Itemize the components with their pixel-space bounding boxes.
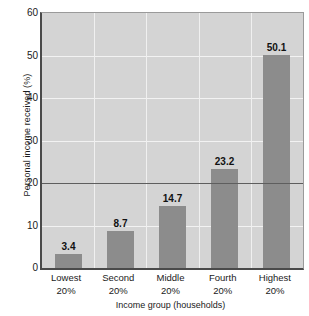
x-axis-tick-label: Highest20%	[249, 272, 301, 297]
bar	[107, 231, 134, 268]
y-axis-tick-label: 60	[8, 7, 38, 18]
vertical-gridline	[146, 13, 147, 268]
bar-value-label: 23.2	[201, 156, 248, 167]
x-axis-tick-label: Fourth20%	[197, 272, 249, 297]
vertical-gridline	[94, 13, 95, 268]
x-axis-tick-label-line: Second	[92, 272, 144, 285]
bar	[55, 254, 82, 268]
plot-inner: 3.48.714.723.250.1	[42, 13, 303, 268]
y-axis-tick-label: 10	[8, 219, 38, 230]
x-axis-tick-label: Lowest20%	[40, 272, 92, 297]
bar-value-label: 14.7	[149, 193, 196, 204]
x-axis-tick-label-line: Middle	[144, 272, 196, 285]
y-axis-tick-labels: 0102030405060	[8, 0, 38, 316]
y-axis-tick-label: 0	[8, 262, 38, 273]
bar	[263, 55, 290, 268]
x-axis-tick-label: Middle20%	[144, 272, 196, 297]
x-axis-tick-label-line: 20%	[197, 285, 249, 298]
bar	[159, 206, 186, 268]
x-axis-tick-label: Second20%	[92, 272, 144, 297]
plot-area: 3.48.714.723.250.1	[40, 12, 304, 270]
reference-line	[42, 183, 303, 184]
x-axis-tick-label-line: Highest	[249, 272, 301, 285]
vertical-gridline	[199, 13, 200, 268]
y-axis-tick-label: 20	[8, 177, 38, 188]
x-axis-tick-label-line: 20%	[40, 285, 92, 298]
bar-value-label: 3.4	[45, 241, 92, 252]
y-axis-tick-label: 40	[8, 92, 38, 103]
bar-value-label: 8.7	[97, 218, 144, 229]
x-axis-tick-label-line: Fourth	[197, 272, 249, 285]
bar	[211, 169, 238, 268]
bar-value-label: 50.1	[253, 42, 300, 53]
x-axis-tick-label-line: Lowest	[40, 272, 92, 285]
x-axis-tick-label-line: 20%	[249, 285, 301, 298]
x-axis-tick-label-line: 20%	[92, 285, 144, 298]
vertical-gridline	[251, 13, 252, 268]
x-axis-tick-label-line: 20%	[144, 285, 196, 298]
y-axis-tick-label: 30	[8, 134, 38, 145]
x-axis-title: Income group (households)	[40, 300, 301, 310]
y-axis-tick-label: 50	[8, 49, 38, 60]
bar-chart: Personal income received (%) 01020304050…	[0, 0, 309, 316]
